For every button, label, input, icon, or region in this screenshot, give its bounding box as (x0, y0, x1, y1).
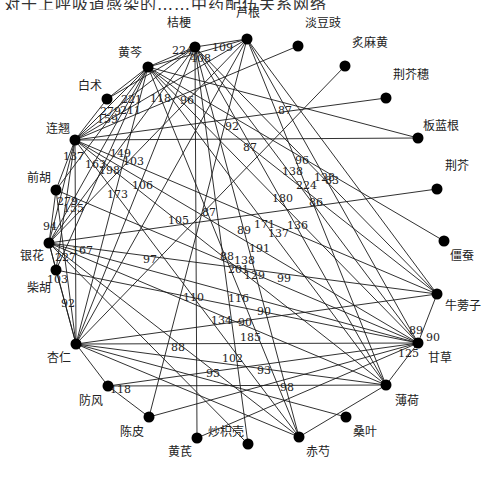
edge-weight-label: 103 (123, 155, 144, 168)
edge-weight-label: 155 (63, 202, 84, 215)
edge-weight-label: 106 (132, 179, 153, 192)
node-黄芩 (143, 62, 154, 73)
edge-weight-label: 88 (171, 341, 185, 354)
node-label: 陈皮 (120, 424, 144, 439)
node-label: 防风 (79, 393, 103, 408)
edge (247, 39, 386, 385)
edge-weight-label: 90 (426, 331, 440, 344)
node-label: 板蓝根 (423, 119, 459, 133)
edge-weight-label: 87 (278, 104, 292, 117)
node-黄芪 (192, 433, 203, 444)
edge-weight-label: 87 (202, 206, 216, 219)
node-label: 白术 (78, 78, 102, 93)
node-label: 桔梗 (167, 15, 191, 30)
edge-weight-label: 137 (268, 227, 289, 240)
edge-weight-label: 97 (143, 253, 157, 266)
edge-weight-label: 98 (280, 381, 294, 394)
edge-weight-label: 92 (61, 297, 75, 310)
edge-weight-label: 93 (257, 364, 271, 377)
node-桔梗 (190, 42, 201, 53)
node-label: 芦根 (236, 6, 260, 20)
node-僵蚕 (439, 236, 450, 247)
edge-weight-label: 110 (183, 291, 204, 304)
node-芦根 (242, 34, 253, 45)
edge-weight-label: 89 (409, 324, 423, 337)
edge (75, 140, 76, 344)
node-陈皮 (144, 412, 155, 423)
node-label: 牛蒡子 (445, 298, 481, 313)
node-label: 杏仁 (47, 351, 71, 365)
edge-weight-label: 88 (220, 250, 234, 263)
edge (56, 140, 75, 190)
edge-weight-label: 92 (225, 120, 239, 133)
node-label: 荆芥穗 (393, 68, 429, 82)
edge-weight-label: 83 (325, 174, 339, 187)
edge (247, 39, 418, 343)
edge-weight-label: 96 (180, 94, 194, 107)
edge-weight-label: 167 (72, 244, 93, 257)
node-label: 荆芥 (445, 159, 469, 173)
node-label: 赤芍 (306, 445, 330, 459)
edge-weight-label: 137 (63, 150, 84, 163)
edge-weight-label: 99 (277, 272, 291, 285)
node-label: 连翘 (46, 121, 70, 136)
node-荆芥 (432, 184, 443, 195)
edge-weight-label: 94 (43, 220, 57, 233)
edge-weight-label: 134 (211, 314, 232, 327)
node-防风 (103, 381, 114, 392)
edge-weight-label: 125 (398, 347, 419, 360)
node-白术 (102, 94, 113, 105)
node-牛蒡子 (432, 289, 443, 300)
node-label: 炙麻黄 (352, 35, 388, 50)
node-板蓝根 (413, 133, 424, 144)
edge-weight-label: 89 (237, 224, 251, 237)
node-荆芥穗 (381, 93, 392, 104)
node-label: 淡豆豉 (305, 16, 341, 30)
edge-weight-label: 224 (296, 179, 317, 192)
edge-weight-label: 138 (282, 165, 303, 178)
node-前胡 (51, 185, 62, 196)
edge-weight-label: 95 (206, 367, 220, 380)
edge (75, 140, 418, 343)
edge-weight-label: 102 (222, 352, 243, 365)
node-label: 僵蚕 (450, 249, 474, 263)
node-柴胡 (51, 265, 62, 276)
edge-weight-label: 90 (238, 316, 252, 329)
edge-weight-label: 185 (240, 331, 261, 344)
edge-weight-label: 90 (257, 305, 271, 318)
edge-weight-label: 159 (97, 113, 118, 126)
node-淡豆豉 (293, 41, 304, 52)
node-label: 甘草 (428, 351, 452, 365)
edge (75, 140, 299, 437)
herb-network-diagram: 2241094081189622127921115987928713714910… (0, 0, 493, 477)
edge (149, 343, 418, 417)
edge-weight-label: 116 (228, 292, 249, 305)
node-label: 柴胡 (27, 281, 51, 295)
edge-weight-label: 173 (107, 188, 128, 201)
node-label: 黄芪 (168, 445, 192, 459)
node-桑叶 (341, 412, 352, 423)
node-炒枳壳 (243, 439, 254, 450)
node-label: 炒枳壳 (208, 425, 244, 439)
node-赤芍 (294, 432, 305, 443)
edge (108, 385, 386, 386)
node-label: 薄荷 (395, 393, 419, 408)
node-甘草 (413, 338, 424, 349)
node-炙麻黄 (340, 61, 351, 72)
edge-weight-label: 129 (244, 269, 265, 282)
edge-weight-label: 211 (120, 104, 141, 117)
node-银花 (44, 238, 55, 249)
node-连翘 (70, 135, 81, 146)
node-薄荷 (381, 380, 392, 391)
edge-weight-label: 105 (168, 214, 189, 227)
edge-weight-label: 198 (99, 164, 120, 177)
edge-weight-label: 118 (150, 92, 171, 105)
node-label: 银花 (20, 248, 44, 263)
edge-weight-label: 86 (309, 196, 323, 209)
edge-weight-label: 408 (190, 52, 211, 65)
edge (56, 270, 418, 343)
edge-weight-label: 180 (272, 192, 293, 205)
node-label: 前胡 (27, 170, 51, 185)
edge-weight-label: 136 (287, 219, 308, 232)
node-杏仁 (71, 339, 82, 350)
